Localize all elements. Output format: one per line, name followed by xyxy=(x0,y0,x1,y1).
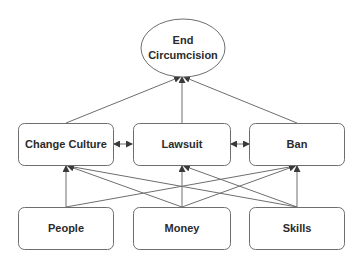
edge-skills-to-lawsuit xyxy=(184,166,297,207)
node-label: Change Culture xyxy=(25,138,107,150)
node-lawsuit[interactable]: Lawsuit xyxy=(134,124,231,166)
diagram-canvas: End Circumcision Change Culture Lawsuit … xyxy=(0,0,362,265)
node-skills[interactable]: Skills xyxy=(250,208,345,250)
edges-from-resources xyxy=(66,166,297,207)
edge-ban-to-end xyxy=(184,77,297,123)
node-change-culture[interactable]: Change Culture xyxy=(19,124,114,166)
node-ban[interactable]: Ban xyxy=(250,124,345,166)
goal-label-line1: End xyxy=(173,34,194,46)
node-label: Lawsuit xyxy=(162,138,203,150)
goal-label-line2: Circumcision xyxy=(148,49,218,61)
node-people[interactable]: People xyxy=(19,208,114,250)
edges-to-goal xyxy=(66,77,297,123)
node-label: Skills xyxy=(283,222,312,234)
node-label: Money xyxy=(165,222,201,234)
node-label: Ban xyxy=(287,138,308,150)
edge-culture-to-end xyxy=(66,77,180,123)
node-money[interactable]: Money xyxy=(134,208,231,250)
edge-money-to-culture xyxy=(68,166,182,207)
node-end-circumcision[interactable]: End Circumcision xyxy=(141,19,225,77)
edge-money-to-ban xyxy=(182,166,295,207)
node-label: People xyxy=(48,222,84,234)
